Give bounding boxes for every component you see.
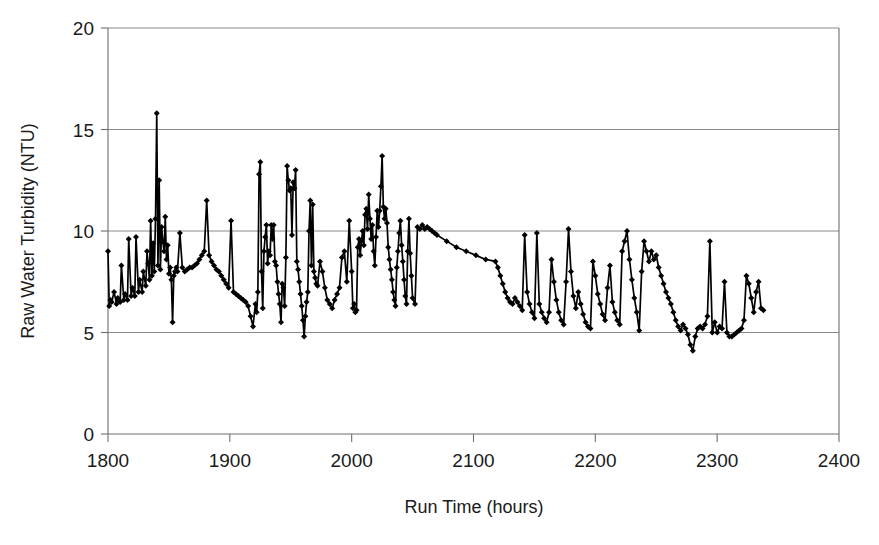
y-axis-title: Raw Water Turbidity (NTU) <box>18 123 38 338</box>
x-axis-title: Run Time (hours) <box>404 497 543 517</box>
x-tick-label: 2000 <box>331 450 373 471</box>
y-axis-ticks: 05101520 <box>73 18 108 445</box>
y-tick-label: 5 <box>83 323 94 344</box>
y-tick-label: 10 <box>73 221 94 242</box>
x-tick-label: 2100 <box>452 450 494 471</box>
x-tick-label: 1900 <box>209 450 251 471</box>
x-axis-ticks: 1800190020002100220023002400 <box>87 434 860 471</box>
x-tick-label: 2400 <box>818 450 860 471</box>
x-tick-label: 2300 <box>696 450 738 471</box>
chart-figure: 05101520 1800190020002100220023002400 Ra… <box>0 0 879 545</box>
y-tick-label: 20 <box>73 18 94 39</box>
turbidity-line-chart: 05101520 1800190020002100220023002400 Ra… <box>0 0 879 545</box>
y-tick-label: 0 <box>83 424 94 445</box>
x-tick-label: 1800 <box>87 450 129 471</box>
y-tick-label: 15 <box>73 120 94 141</box>
x-tick-label: 2200 <box>574 450 616 471</box>
